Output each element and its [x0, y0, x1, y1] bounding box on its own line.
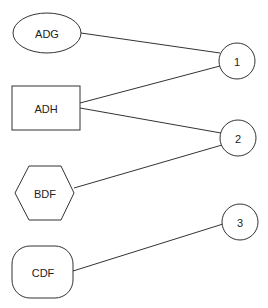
node-cdf[interactable]: CDF: [12, 246, 73, 298]
node-cdf-label: CDF: [32, 267, 55, 279]
node-3-label: 3: [237, 217, 243, 229]
node-2[interactable]: 2: [220, 120, 256, 156]
node-adg[interactable]: ADG: [13, 13, 81, 53]
node-1[interactable]: 1: [219, 43, 255, 79]
node-adh[interactable]: ADH: [12, 86, 80, 130]
edge-adh-2: [80, 108, 221, 133]
edge-cdf-3: [73, 224, 223, 271]
node-bdf[interactable]: BDF: [15, 166, 74, 220]
node-2-label: 2: [235, 133, 241, 145]
diagram-canvas: ADG ADH BDF CDF 1 2 3: [0, 0, 268, 308]
node-3[interactable]: 3: [222, 204, 258, 240]
node-adh-label: ADH: [34, 103, 57, 115]
edge-adg-1: [81, 33, 220, 53]
node-1-label: 1: [234, 56, 240, 68]
node-bdf-label: BDF: [34, 188, 56, 200]
edge-bdf-2: [74, 145, 222, 188]
node-adg-label: ADG: [35, 28, 59, 40]
edge-adh-1: [80, 66, 220, 103]
